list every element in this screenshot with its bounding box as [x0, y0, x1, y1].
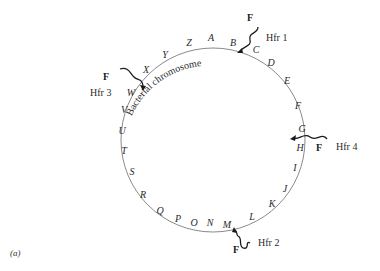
panel-label: (a) — [10, 248, 21, 258]
gene-label-p: P — [175, 213, 181, 224]
gene-label-u: U — [118, 125, 125, 136]
hfr2-label: Hfr 2 — [258, 237, 279, 248]
gene-label-l: L — [249, 211, 255, 222]
chromosome-label: Bacterial chromosome — [123, 57, 202, 117]
gene-label-x: X — [143, 64, 149, 75]
gene-label-r: R — [140, 189, 146, 200]
gene-label-n: N — [207, 217, 214, 228]
gene-label-s: S — [130, 166, 135, 177]
gene-label-d: D — [267, 57, 274, 68]
gene-label-v: V — [121, 104, 127, 115]
gene-label-k: K — [269, 198, 276, 209]
gene-label-f: F — [295, 100, 301, 111]
gene-label-w: W — [127, 87, 135, 98]
hfr3-f-label: F — [103, 71, 109, 82]
hfr1-label: Hfr 1 — [266, 32, 287, 43]
gene-label-m: M — [223, 219, 231, 230]
hfr2-f-label: F — [233, 244, 239, 255]
gene-label-o: O — [190, 217, 197, 228]
hfr1-f-label: F — [247, 12, 253, 23]
gene-label-z: Z — [186, 37, 192, 48]
gene-label-e: E — [284, 75, 290, 86]
gene-label-h: H — [296, 142, 303, 153]
hfr4-f-label: F — [316, 142, 322, 153]
gene-label-y: Y — [162, 49, 168, 60]
hfr4-label: Hfr 4 — [336, 141, 357, 152]
gene-label-t: T — [121, 145, 127, 156]
gene-label-q: Q — [156, 205, 163, 216]
gene-label-i: I — [293, 162, 296, 173]
gene-label-a: A — [208, 32, 214, 43]
gene-label-c: C — [253, 44, 260, 55]
gene-label-b: B — [230, 37, 236, 48]
hfr3-label: Hfr 3 — [90, 87, 111, 98]
gene-label-g: G — [298, 123, 305, 134]
hfr-conjugation-diagram: Bacterial chromosome A B C D E F G H I J… — [0, 0, 380, 271]
gene-label-j: J — [283, 183, 287, 194]
hfr4-f-factor-icon — [290, 135, 327, 141]
bacterial-chromosome-circle — [121, 48, 305, 232]
